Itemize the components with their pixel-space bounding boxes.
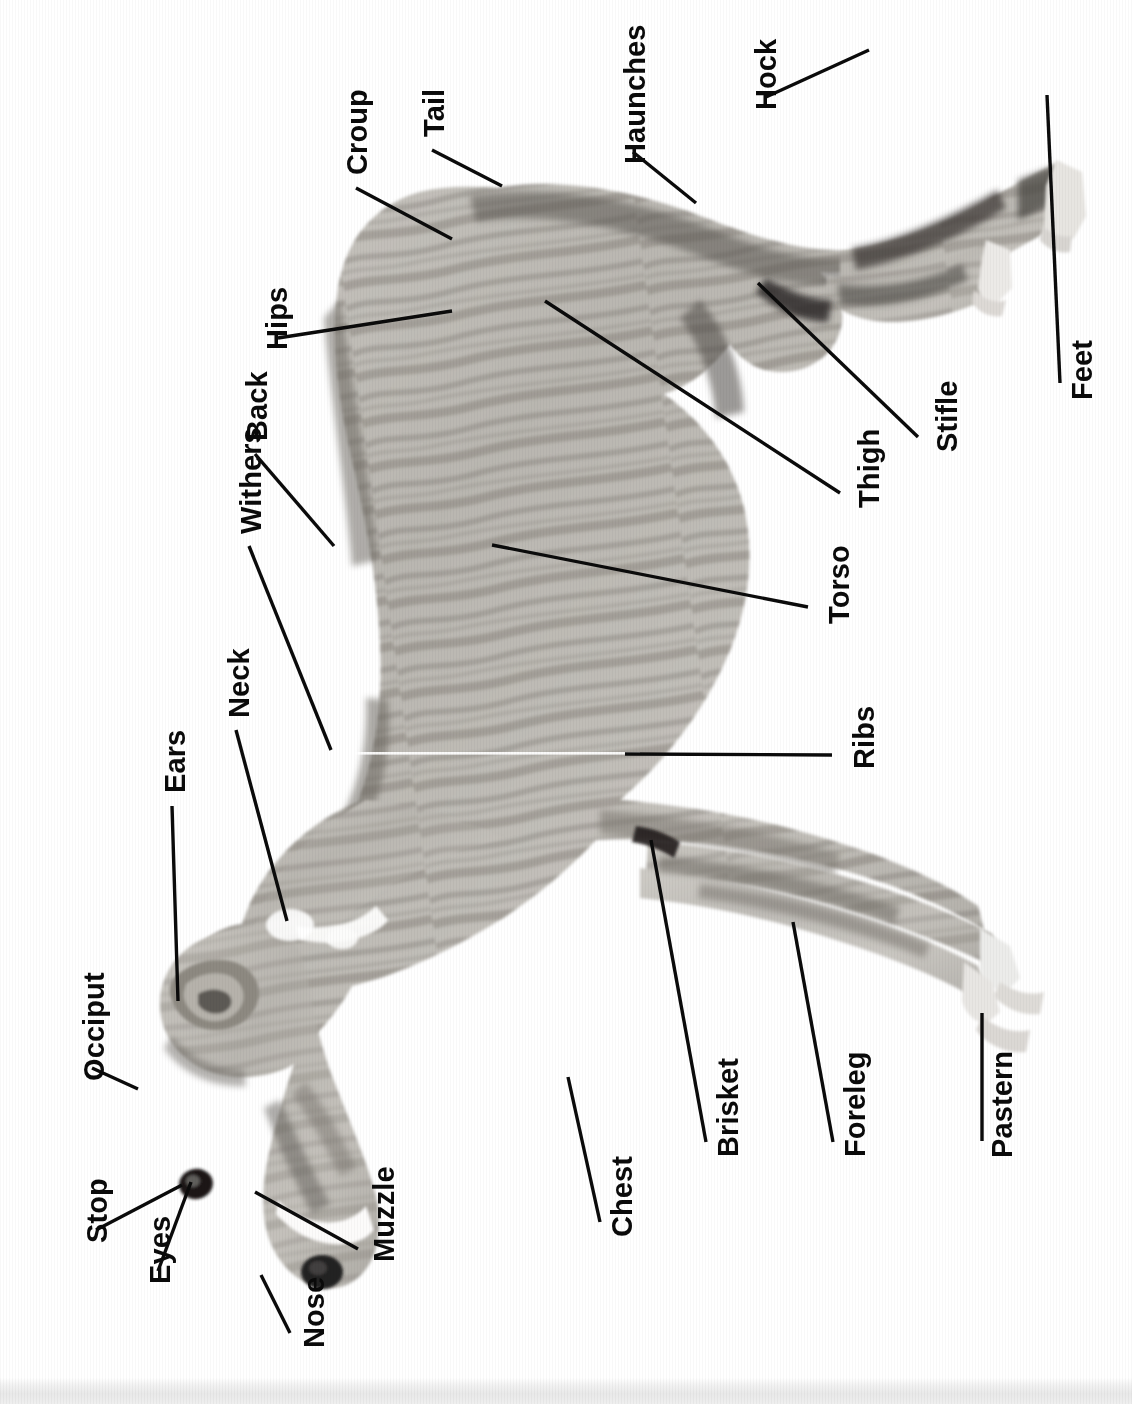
- label-stifle: Stifle: [933, 381, 962, 453]
- label-hips: Hips: [263, 287, 292, 350]
- label-eyes: Eyes: [146, 1216, 175, 1284]
- label-hock: Hock: [752, 39, 781, 110]
- label-neck: Neck: [225, 648, 254, 718]
- label-thigh: Thigh: [855, 429, 884, 508]
- label-foreleg: Foreleg: [841, 1052, 870, 1157]
- scan-page-edge: [0, 1378, 1132, 1404]
- label-haunches: Haunches: [621, 25, 650, 164]
- label-muzzle: Muzzle: [370, 1166, 399, 1262]
- label-brisket: Brisket: [714, 1058, 743, 1157]
- label-torso: Torso: [825, 545, 854, 624]
- label-occiput: Occiput: [80, 972, 109, 1081]
- label-pastern: Pastern: [988, 1051, 1017, 1158]
- figure-page: TailCroupHipsBackWithersNeckEarsOcciputS…: [0, 0, 1132, 1404]
- dog-illustration: [0, 0, 1132, 1404]
- label-tail: Tail: [420, 89, 449, 137]
- label-ears: Ears: [161, 730, 190, 793]
- label-withers: Withers: [237, 427, 266, 534]
- label-chest: Chest: [608, 1156, 637, 1237]
- label-nose: Nose: [300, 1277, 329, 1348]
- label-croup: Croup: [343, 89, 372, 175]
- label-ribs: Ribs: [850, 706, 879, 769]
- label-stop: Stop: [83, 1178, 112, 1243]
- label-feet: Feet: [1068, 340, 1097, 400]
